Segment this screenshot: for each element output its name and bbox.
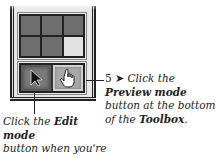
hand-pointer-icon (59, 68, 77, 88)
tool-cell-empty (64, 37, 83, 56)
tool-cell[interactable] (42, 37, 61, 56)
edit-mode-button[interactable] (21, 65, 51, 91)
toolbox-label: Toolbox (139, 113, 184, 125)
top-fade (8, 0, 100, 10)
mode-buttons (19, 63, 85, 93)
toolbox-bottom-border (10, 97, 96, 101)
tool-cell[interactable] (64, 16, 83, 35)
leader-line-preview (86, 80, 104, 81)
step-number: 5 (105, 72, 112, 84)
tool-cell[interactable] (21, 37, 40, 56)
toolbox-right-border (92, 6, 96, 101)
arrow-pointer-icon (29, 69, 43, 87)
preview-mode-label: Preview mode (105, 86, 187, 98)
preview-mode-button[interactable] (53, 65, 83, 91)
leader-line-edit (34, 92, 35, 114)
callout-edit: Click the Edit mode button when you're d… (3, 115, 113, 157)
tool-cell[interactable] (42, 16, 61, 35)
callout-preview: 5 ➤ Click the Preview mode button at the… (105, 72, 216, 126)
tool-grid (19, 14, 85, 58)
toolbox-left-border (10, 6, 14, 101)
tool-cell[interactable] (21, 16, 40, 35)
step-arrow-icon: ➤ (115, 72, 124, 84)
